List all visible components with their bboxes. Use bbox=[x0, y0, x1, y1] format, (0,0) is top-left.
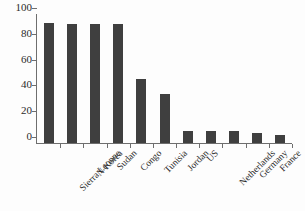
y-tick-label: 80 bbox=[21, 27, 32, 40]
y-tick-label: 100 bbox=[16, 1, 33, 14]
y-tick-label: 20 bbox=[21, 104, 32, 117]
bar bbox=[252, 133, 262, 143]
x-tick-label: Tunisia bbox=[163, 148, 191, 176]
y-tick-label: 0 bbox=[27, 130, 33, 143]
bar bbox=[206, 131, 216, 143]
bar bbox=[90, 24, 100, 143]
bar bbox=[67, 24, 77, 143]
bar bbox=[44, 23, 54, 143]
bar-chart: 020406080100 Sierra LeonneN KoreaSudanCo… bbox=[0, 0, 305, 211]
x-axis-line bbox=[36, 143, 292, 144]
bar bbox=[136, 79, 146, 144]
plot-area: 020406080100 bbox=[36, 8, 294, 149]
x-axis-labels: Sierra LeonneN KoreaSudanCongoTunisiaJor… bbox=[36, 148, 305, 211]
bar bbox=[160, 94, 170, 143]
bar bbox=[113, 24, 123, 143]
bar bbox=[275, 135, 285, 143]
y-tick-mark bbox=[32, 8, 37, 9]
x-tick-label: Congo bbox=[139, 148, 165, 174]
bar bbox=[183, 131, 193, 143]
bar bbox=[229, 131, 239, 143]
bar-series bbox=[37, 14, 292, 143]
y-tick-label: 60 bbox=[21, 53, 32, 66]
x-tick-label: Jordan bbox=[185, 148, 211, 174]
y-tick-label: 40 bbox=[21, 78, 32, 91]
